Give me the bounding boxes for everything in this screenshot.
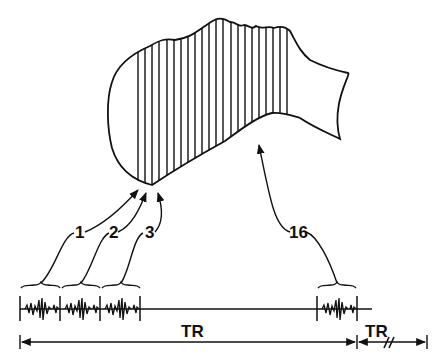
anatomical-region bbox=[108, 10, 349, 200]
pointer-slice-2 bbox=[118, 193, 146, 232]
label-slice-3: 3 bbox=[145, 224, 154, 241]
diagram-canvas bbox=[0, 0, 443, 362]
leader-block-1 bbox=[41, 233, 74, 283]
label-slice-2: 2 bbox=[109, 224, 118, 241]
leader-block-16 bbox=[306, 232, 337, 283]
label-tr-next: TR bbox=[365, 323, 388, 340]
leader-block-3 bbox=[121, 233, 143, 283]
braces bbox=[21, 282, 356, 288]
label-slice-16: 16 bbox=[289, 224, 308, 241]
acquisition-timeline bbox=[20, 296, 372, 321]
label-slice-1: 1 bbox=[75, 224, 84, 241]
region-outline bbox=[108, 19, 349, 185]
label-tr-main: TR bbox=[181, 323, 204, 340]
leader-block-2 bbox=[81, 233, 109, 283]
pointer-slice-16 bbox=[259, 145, 290, 232]
slice-pointers bbox=[41, 145, 337, 283]
pointer-slice-3 bbox=[155, 193, 161, 232]
